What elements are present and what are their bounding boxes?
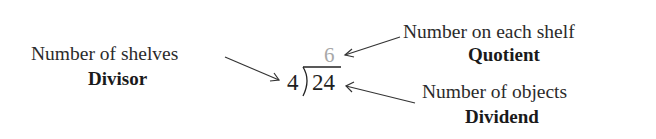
arrows-layer bbox=[0, 0, 656, 139]
dividend-arrow-icon bbox=[346, 82, 415, 103]
division-bracket-icon bbox=[303, 67, 341, 96]
divisor-arrow-icon bbox=[225, 57, 279, 81]
quotient-arrow-icon bbox=[345, 37, 400, 57]
